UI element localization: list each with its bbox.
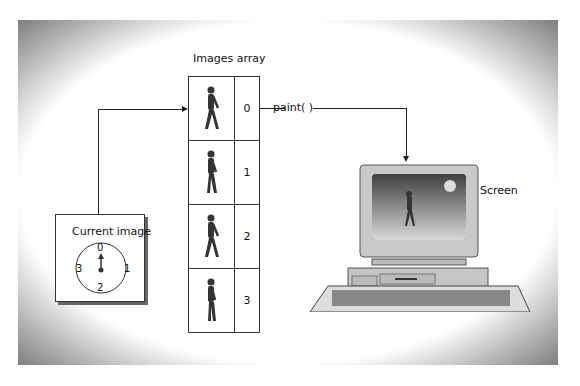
array-index: 2	[235, 205, 259, 268]
walking-figure-icon	[189, 141, 235, 204]
array-index: 0	[235, 77, 259, 140]
connector-line	[98, 109, 99, 214]
clock-pos-3: 3	[76, 263, 82, 274]
current-image-indicator: Current image 0 1 2 3	[55, 214, 145, 302]
walking-figure-icon	[189, 205, 235, 268]
paint-label: paint( )	[273, 101, 313, 114]
array-cell-3: 3	[189, 269, 259, 332]
array-cell-1: 1	[189, 141, 259, 205]
array-cell-0: 0	[189, 77, 259, 141]
array-index: 3	[235, 269, 259, 332]
current-image-title: Current image	[72, 225, 151, 238]
connector-line	[313, 108, 407, 109]
clock-pos-0: 0	[97, 242, 103, 253]
screen-label: Screen	[480, 184, 518, 197]
walking-figure-icon	[189, 77, 235, 140]
connector-line	[406, 108, 407, 160]
clock-pos-2: 2	[97, 282, 103, 293]
images-array-title: Images array	[193, 52, 266, 65]
walking-figure-icon	[189, 269, 235, 332]
array-cell-2: 2	[189, 205, 259, 269]
arrow-right-icon	[182, 106, 188, 112]
images-array: 0 1 2 3	[188, 76, 260, 333]
array-index: 1	[235, 141, 259, 204]
clock-pos-1: 1	[124, 263, 130, 274]
connector-line	[98, 109, 186, 110]
